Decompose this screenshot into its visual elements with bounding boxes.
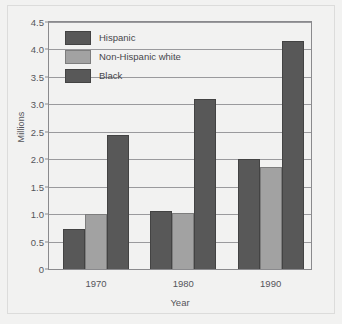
legend-item-non-hispanic-white: Non-Hispanic white [65,49,181,64]
chart-legend: Hispanic Non-Hispanic white Black [65,30,181,87]
y-tick-mark [45,241,49,242]
bar-1990-non-hispanic-white [260,167,282,269]
plot-inner: 00.51.01.52.02.53.03.54.04.5197019801990… [49,22,311,269]
x-tick-label-1980: 1980 [173,278,194,289]
y-tick-mark [45,22,49,23]
y-tick-mark [45,76,49,77]
y-tick-mark [45,159,49,160]
y-tick-mark [45,186,49,187]
bar-1980-black [194,99,216,269]
legend-label-non-hispanic-white: Non-Hispanic white [99,51,181,62]
y-tick-label: 1.0 [31,209,44,220]
legend-swatch-icon-non-hispanic-white [65,50,91,64]
y-tick-label: 4.5 [31,17,44,28]
y-tick-mark [45,49,49,50]
gridline [49,269,311,270]
x-axis-title: Year [48,297,312,308]
legend-label-hispanic: Hispanic [99,32,135,43]
y-tick-label: 3.5 [31,71,44,82]
bar-chart-figure: Millions 00.51.01.52.02.53.03.54.04.5197… [0,0,342,324]
x-tick-label-1970: 1970 [85,278,106,289]
plot-area: 00.51.01.52.02.53.03.54.04.5197019801990… [48,21,312,270]
y-axis-title: Millions [16,87,26,167]
bar-1980-hispanic [150,211,172,269]
y-tick-mark [45,131,49,132]
y-tick-label: 2.0 [31,154,44,165]
legend-swatch-icon-black [65,69,91,83]
y-tick-mark [45,214,49,215]
x-tick-label-1990: 1990 [260,278,281,289]
y-tick-mark [45,269,49,270]
y-tick-label: 1.5 [31,181,44,192]
bar-1990-hispanic [238,159,260,269]
bar-1990-black [282,41,304,269]
bar-1980-non-hispanic-white [172,213,194,269]
y-tick-label: 0.5 [31,236,44,247]
y-tick-mark [45,104,49,105]
y-tick-label: 3.0 [31,99,44,110]
y-tick-label: 2.5 [31,126,44,137]
bar-group-1990 [238,22,304,269]
legend-item-hispanic: Hispanic [65,30,181,45]
legend-item-black: Black [65,68,181,83]
legend-label-black: Black [99,70,122,81]
bar-1970-black [107,135,129,269]
legend-swatch-icon-hispanic [65,31,91,45]
bar-1970-non-hispanic-white [85,214,107,269]
bar-1970-hispanic [63,229,85,269]
y-tick-label: 0 [39,264,44,275]
y-tick-label: 4.0 [31,44,44,55]
